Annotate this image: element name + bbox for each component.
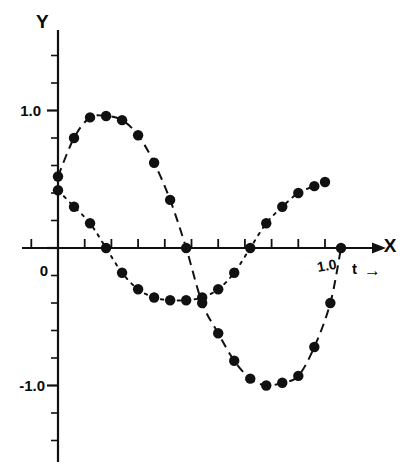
data-point <box>85 218 95 228</box>
data-point <box>245 243 255 253</box>
data-point <box>277 202 287 212</box>
data-point <box>213 328 223 338</box>
y-tick-label-1: 1.0 <box>20 102 41 119</box>
data-point <box>181 295 191 305</box>
data-point <box>117 115 127 125</box>
annotation-label-0-3: +0.3 <box>0 0 26 3</box>
data-point <box>293 188 303 198</box>
data-point <box>261 380 271 390</box>
data-point <box>261 218 271 228</box>
series-dashed-line <box>58 115 341 386</box>
data-point <box>320 177 330 187</box>
data-point <box>336 243 346 253</box>
data-point <box>133 284 143 294</box>
plot-svg: Y X t → 1.0 0 -1.0 1.0 +1.25 +0.95 +0.3 <box>0 0 411 473</box>
data-point <box>149 158 159 168</box>
data-point <box>245 373 255 383</box>
data-point <box>229 268 239 278</box>
x-tick-label-1: 1.0 <box>316 256 338 275</box>
x-axis-ticks <box>31 239 325 248</box>
t-axis-label: t <box>352 260 357 277</box>
data-point <box>149 292 159 302</box>
data-point <box>101 111 111 121</box>
data-point <box>309 342 319 352</box>
y-axis-label: Y <box>36 11 49 32</box>
figure-canvas: Y X t → 1.0 0 -1.0 1.0 +1.25 +0.95 +0.3 <box>0 0 411 473</box>
y-tick-label-minus1: -1.0 <box>19 377 45 394</box>
y-axis-ticks <box>47 56 58 441</box>
data-point <box>309 181 319 191</box>
data-point <box>277 378 287 388</box>
data-point <box>293 371 303 381</box>
data-point <box>197 298 207 308</box>
data-point <box>53 185 63 195</box>
axes <box>22 30 386 462</box>
data-point <box>133 130 143 140</box>
data-point <box>69 202 79 212</box>
data-series-group <box>53 111 346 391</box>
data-point <box>325 298 335 308</box>
y-tick-label-0: 0 <box>40 262 48 279</box>
t-axis-arrow-icon: → <box>364 261 381 280</box>
data-point <box>229 356 239 366</box>
series-dashed-markers <box>53 111 346 391</box>
data-point <box>69 133 79 143</box>
data-point <box>165 295 175 305</box>
x-axis-label: X <box>384 235 397 256</box>
data-point <box>165 195 175 205</box>
data-point <box>53 171 63 181</box>
data-point <box>181 243 191 253</box>
data-point <box>213 284 223 294</box>
data-point <box>117 268 127 278</box>
data-point <box>85 112 95 122</box>
data-point <box>101 243 111 253</box>
